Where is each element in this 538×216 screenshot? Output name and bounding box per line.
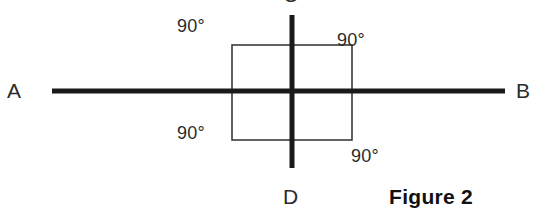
endpoint-label-b: B	[516, 80, 530, 101]
figure-caption: Figure 2	[389, 186, 473, 207]
endpoint-label-a: A	[7, 80, 21, 101]
figure-diagram-canvas	[0, 0, 538, 216]
angle-label-bottom-left: 90°	[177, 124, 205, 142]
angle-label-bottom-right: 90°	[351, 147, 379, 165]
endpoint-label-c: C	[283, 0, 298, 5]
endpoint-label-d: D	[283, 186, 298, 207]
angle-label-top-left: 90°	[177, 17, 205, 35]
angle-label-top-right: 90°	[337, 31, 365, 49]
